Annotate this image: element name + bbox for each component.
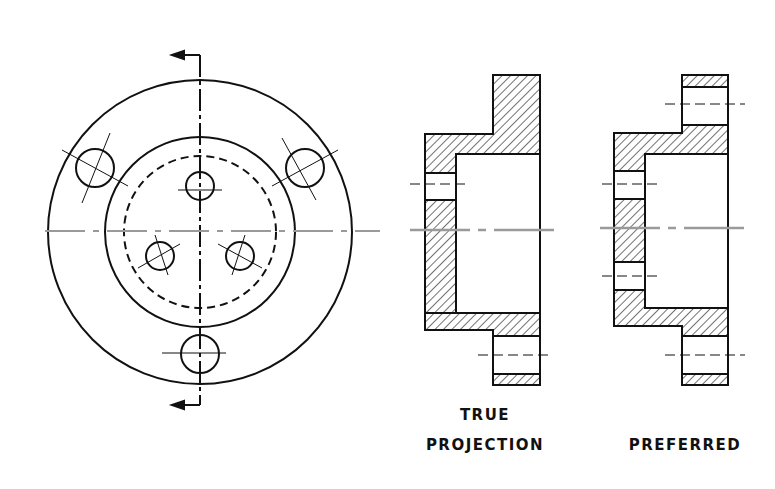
preferred-section xyxy=(602,75,745,385)
drawing-canvas xyxy=(0,0,775,489)
arrow-bottom-icon xyxy=(172,401,184,409)
label-projection: PROJECTION xyxy=(410,436,560,454)
label-preferred: PREFERRED xyxy=(612,436,758,454)
arrow-top-icon xyxy=(172,51,184,59)
label-true: TRUE xyxy=(430,406,540,424)
